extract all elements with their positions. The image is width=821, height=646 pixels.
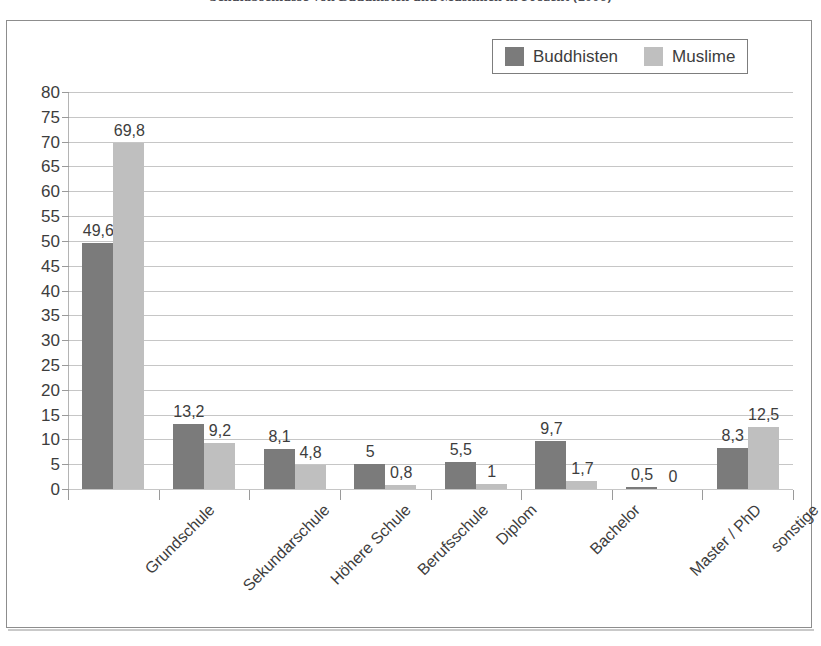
bar-value-label: 1,7 <box>555 461 609 477</box>
y-axis-tick <box>62 315 69 316</box>
x-axis-tick <box>702 490 703 500</box>
bar-value-label: 9,2 <box>193 423 247 439</box>
bar-muslime[interactable] <box>295 465 326 489</box>
bar-buddhisten[interactable] <box>717 448 748 489</box>
y-axis-tick-label: 40 <box>24 283 60 300</box>
legend-entry-muslime[interactable]: Muslime <box>644 47 735 67</box>
bar-group: 9,71,7 <box>535 92 597 489</box>
x-axis-tick <box>340 490 341 500</box>
y-axis-tick <box>62 117 69 118</box>
x-axis-tick <box>249 490 250 500</box>
y-axis-tick <box>62 291 69 292</box>
x-axis-tick <box>68 490 69 500</box>
y-axis-tick <box>62 340 69 341</box>
plot-area: 49,669,813,29,28,14,850,85,519,71,70,508… <box>68 92 793 489</box>
bar-muslime[interactable] <box>113 143 144 489</box>
y-axis-tick <box>62 415 69 416</box>
y-axis-tick-label: 75 <box>24 109 60 126</box>
y-axis-tick-label: 0 <box>24 481 60 498</box>
legend-label-muslime: Muslime <box>672 47 735 67</box>
bar-value-label: 1 <box>465 464 519 480</box>
bar-group: 49,669,8 <box>82 92 144 489</box>
x-axis-tick <box>159 490 160 500</box>
y-axis-tick <box>62 166 69 167</box>
bar-value-label: 13,2 <box>162 404 216 420</box>
chart-legend: Buddhisten Muslime <box>492 39 748 74</box>
bar-muslime[interactable] <box>566 481 597 489</box>
y-axis-tick-label: 5 <box>24 456 60 473</box>
y-axis-tick-label: 70 <box>24 134 60 151</box>
y-axis-tick-label: 50 <box>24 233 60 250</box>
bar-group: 13,29,2 <box>173 92 235 489</box>
bar-muslime[interactable] <box>476 484 507 489</box>
bar-group: 8,14,8 <box>264 92 326 489</box>
bar-group: 8,312,5 <box>717 92 779 489</box>
bar-muslime[interactable] <box>748 427 779 489</box>
y-axis-tick-label: 45 <box>24 258 60 275</box>
bar-group: 0,50 <box>626 92 688 489</box>
y-axis-tick-label: 20 <box>24 382 60 399</box>
y-axis-tick-labels: 05101520253035404550556065707580 <box>20 0 60 646</box>
bar-muslime[interactable] <box>204 443 235 489</box>
page-title: Schulabschlüsse von Buddhisten und Musli… <box>0 0 821 3</box>
y-axis-tick-label: 15 <box>24 407 60 424</box>
y-axis-tick <box>62 216 69 217</box>
y-axis-tick <box>62 191 69 192</box>
frame-shadow <box>8 629 814 631</box>
bar-value-label: 12,5 <box>737 407 791 423</box>
legend-entry-buddhisten[interactable]: Buddhisten <box>505 47 618 67</box>
legend-swatch-buddhisten <box>505 47 524 66</box>
y-axis-tick <box>62 464 69 465</box>
y-axis-tick <box>62 241 69 242</box>
bar-value-label: 4,8 <box>284 445 338 461</box>
y-axis-tick-label: 35 <box>24 307 60 324</box>
y-axis-tick <box>62 266 69 267</box>
bar-value-label: 0 <box>646 469 700 485</box>
y-axis-tick <box>62 142 69 143</box>
x-axis-tick <box>521 490 522 500</box>
x-axis-tick <box>431 490 432 500</box>
bar-value-label: 5 <box>343 444 397 460</box>
bar-buddhisten[interactable] <box>626 487 657 489</box>
bar-buddhisten[interactable] <box>82 243 113 489</box>
y-axis-tick-label: 30 <box>24 332 60 349</box>
bar-value-label: 9,7 <box>524 421 578 437</box>
y-axis-tick-label: 65 <box>24 158 60 175</box>
x-axis-tick <box>793 490 794 500</box>
bar-value-label: 8,1 <box>253 429 307 445</box>
y-axis-tick-label: 60 <box>24 183 60 200</box>
x-axis-tick <box>612 490 613 500</box>
legend-swatch-muslime <box>644 47 663 66</box>
legend-label-buddhisten: Buddhisten <box>533 47 618 67</box>
bar-value-label: 5,5 <box>434 442 488 458</box>
y-axis-tick <box>62 390 69 391</box>
y-axis-tick-label: 80 <box>24 84 60 101</box>
y-axis-tick-label: 55 <box>24 208 60 225</box>
bar-value-label: 0,8 <box>374 465 428 481</box>
y-axis-tick <box>62 439 69 440</box>
bar-group: 50,8 <box>354 92 416 489</box>
y-axis-tick <box>62 365 69 366</box>
y-axis-tick-label: 25 <box>24 357 60 374</box>
bar-value-label: 69,8 <box>102 123 156 139</box>
y-axis-tick-label: 10 <box>24 431 60 448</box>
bar-group: 5,51 <box>445 92 507 489</box>
y-axis-tick <box>62 92 69 93</box>
bar-muslime[interactable] <box>385 485 416 489</box>
